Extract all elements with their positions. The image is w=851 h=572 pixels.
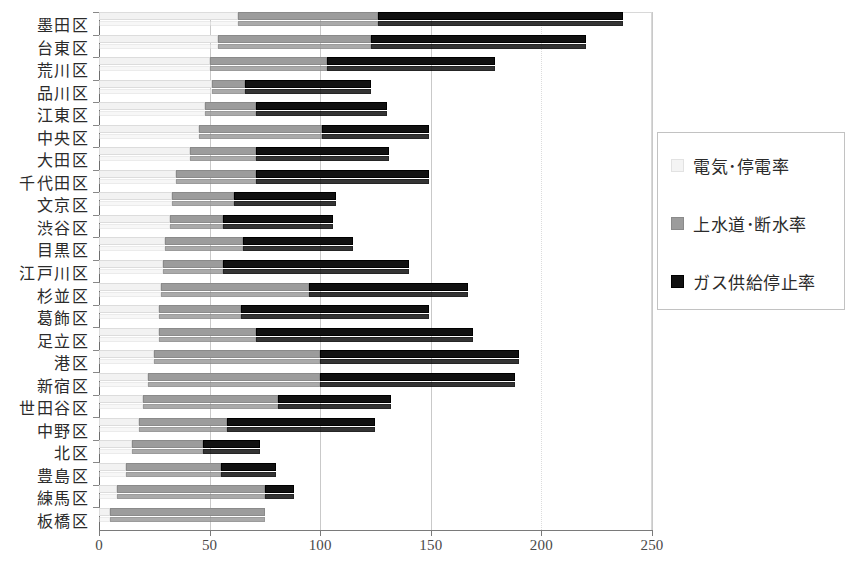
bar-segment [159, 305, 241, 313]
bar-segment [205, 102, 256, 110]
bar-segment [163, 260, 223, 268]
bar-segment-shadow [218, 44, 371, 49]
black-swatch-icon [671, 275, 684, 288]
bar-segment [99, 260, 163, 268]
bar-segment [99, 35, 218, 43]
bar-segment [320, 373, 515, 381]
bar-segment-shadow [110, 517, 265, 522]
bar-segment-shadow [205, 111, 256, 116]
bar-segment [99, 125, 199, 133]
bar-segment [99, 418, 139, 426]
bar-chart: 墨田区台東区荒川区品川区江東区中央区大田区千代田区文京区渋谷区目黒区江戸川区杉並… [0, 0, 851, 572]
bar-segment [161, 283, 309, 291]
bar-segment-shadow [176, 179, 256, 184]
bar-segment-shadow [190, 156, 256, 161]
bar-segment [99, 12, 238, 20]
category-label-4: 江東区 [37, 102, 90, 126]
bar-segment [223, 215, 334, 223]
bar-segment-shadow [99, 359, 154, 364]
x-tick-0 [99, 530, 100, 536]
bar-segment-shadow [99, 517, 110, 522]
legend-label-water: 上水道･断水率 [693, 211, 807, 236]
bar-segment [99, 328, 159, 336]
bar-segment-shadow [99, 89, 212, 94]
bar-segment-shadow [99, 382, 148, 387]
bar-segment [256, 102, 387, 110]
bar-segment [117, 485, 265, 493]
bar-segment [265, 485, 294, 493]
bar-segment [309, 283, 468, 291]
bar-segment-shadow [99, 156, 190, 161]
bar-segment-shadow [99, 427, 139, 432]
legend-item-electricity: 電気･停電率 [671, 153, 789, 178]
bar-segment [199, 125, 323, 133]
legend-item-gas: ガス供給停止率 [671, 269, 816, 294]
category-label-18: 中野区 [37, 418, 90, 442]
bar-segment-shadow [212, 89, 245, 94]
bar-segment-shadow [210, 66, 327, 71]
bar-segment [126, 463, 221, 471]
bar-segment-shadow [256, 179, 429, 184]
bar-segment [159, 328, 256, 336]
bar-segment [238, 12, 377, 20]
gridline-200 [541, 12, 542, 530]
x-tick-250 [652, 530, 653, 536]
bar-segment-shadow [245, 89, 371, 94]
bar-segment-shadow [327, 66, 495, 71]
bar-segment [378, 12, 624, 20]
bar-segment-shadow [99, 337, 159, 342]
bar-segment-shadow [278, 404, 391, 409]
bar-segment [99, 305, 159, 313]
category-label-16: 新宿区 [37, 373, 90, 397]
x-tick-150 [431, 530, 432, 536]
bar-segment [172, 192, 234, 200]
bar-segment [320, 350, 519, 358]
bar-segment-shadow [227, 427, 375, 432]
bar-segment [256, 328, 473, 336]
category-label-3: 品川区 [37, 80, 90, 104]
y-axis-category-labels: 墨田区台東区荒川区品川区江東区中央区大田区千代田区文京区渋谷区目黒区江戸川区杉並… [0, 0, 91, 572]
bar-segment [234, 192, 336, 200]
bar-segment-shadow [223, 224, 334, 229]
bar-segment-shadow [309, 292, 468, 297]
category-label-22: 板橋区 [37, 508, 90, 532]
category-label-7: 千代田区 [19, 170, 89, 194]
bar-segment [227, 418, 375, 426]
bar-segment-shadow [99, 449, 132, 454]
bar-segment [256, 147, 389, 155]
bar-segment-shadow [165, 246, 242, 251]
legend-label-gas: ガス供給停止率 [693, 269, 816, 294]
bar-segment-shadow [320, 359, 519, 364]
category-label-14: 足立区 [37, 328, 90, 352]
bar-segment-shadow [238, 21, 377, 26]
category-label-17: 世田谷区 [19, 395, 89, 419]
bar-segment [176, 170, 256, 178]
bar-segment [99, 485, 117, 493]
bar-segment-shadow [159, 337, 256, 342]
bar-segment-shadow [221, 472, 276, 477]
category-label-10: 目黒区 [37, 237, 90, 261]
bar-segment [218, 35, 371, 43]
bar-segment [139, 418, 227, 426]
bar-segment-shadow [170, 224, 223, 229]
bar-segment-shadow [371, 44, 586, 49]
bar-segment-shadow [132, 449, 203, 454]
category-label-19: 北区 [54, 440, 89, 464]
bar-segment [99, 350, 154, 358]
category-label-9: 渋谷区 [37, 215, 90, 239]
bar-segment-shadow [99, 404, 143, 409]
bar-segment [212, 80, 245, 88]
gridline-250 [652, 12, 653, 530]
bar-segment [99, 57, 210, 65]
category-label-8: 文京区 [37, 192, 90, 216]
x-tick-200 [541, 530, 542, 536]
light-gray-swatch-icon [671, 159, 684, 172]
bar-segment-shadow [322, 134, 428, 139]
category-label-6: 大田区 [37, 147, 90, 171]
bar-segment [243, 237, 354, 245]
bar-segment [256, 170, 429, 178]
bar-segment-shadow [99, 292, 161, 297]
bar-segment [223, 260, 409, 268]
category-label-5: 中央区 [37, 125, 90, 149]
bar-segment [278, 395, 391, 403]
